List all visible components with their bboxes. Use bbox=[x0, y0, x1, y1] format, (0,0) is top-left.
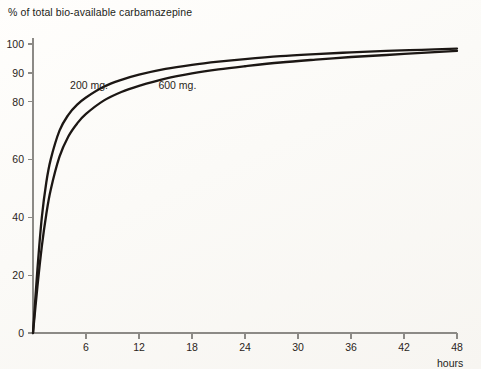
x-tick-label: 42 bbox=[398, 341, 410, 353]
data-curves bbox=[33, 49, 457, 333]
series-annotations: 200 mg.600 mg. bbox=[70, 79, 196, 91]
y-tick-label: 60 bbox=[12, 153, 24, 165]
x-tick-label: 12 bbox=[133, 341, 145, 353]
y-tick-label: 0 bbox=[18, 327, 24, 339]
y-tick-label: 20 bbox=[12, 269, 24, 281]
x-axis: 612182430364248 bbox=[33, 333, 463, 353]
curve-200-mg bbox=[33, 49, 457, 333]
y-axis: 02040608090100 bbox=[6, 38, 33, 339]
y-tick-label: 100 bbox=[6, 38, 24, 50]
curve-600-mg bbox=[33, 51, 457, 333]
chart-figure: % of total bio-available carbamazepine 0… bbox=[0, 0, 481, 369]
plot-area: 02040608090100 612182430364248 200 mg.60… bbox=[0, 0, 481, 369]
x-tick-label: 18 bbox=[186, 341, 198, 353]
x-tick-label: 48 bbox=[451, 341, 463, 353]
x-tick-label: 30 bbox=[292, 341, 304, 353]
series-label: 200 mg. bbox=[70, 79, 108, 91]
y-tick-label: 40 bbox=[12, 211, 24, 223]
x-tick-label: 36 bbox=[345, 341, 357, 353]
x-axis-unit-label: hours bbox=[437, 357, 463, 369]
y-tick-label: 90 bbox=[12, 67, 24, 79]
x-tick-label: 24 bbox=[239, 341, 251, 353]
y-tick-label: 80 bbox=[12, 96, 24, 108]
series-label: 600 mg. bbox=[158, 79, 196, 91]
x-tick-label: 6 bbox=[83, 341, 89, 353]
